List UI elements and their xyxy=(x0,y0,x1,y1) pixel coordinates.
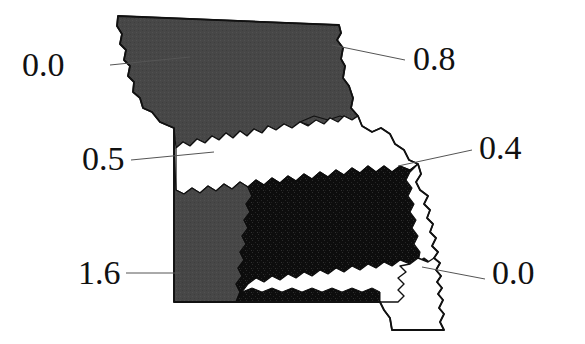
leader-east-central xyxy=(398,150,472,166)
region-south-black-base xyxy=(236,288,380,302)
label-southwest: 1.6 xyxy=(78,256,121,290)
label-west-central: 0.5 xyxy=(82,142,125,176)
label-southeast: 0.0 xyxy=(492,256,535,290)
label-northeast: 0.8 xyxy=(413,42,456,76)
missouri-value-map-figure: 0.0 0.8 0.5 0.4 1.6 0.0 xyxy=(0,0,585,344)
label-east-central: 0.4 xyxy=(479,131,522,165)
label-northwest: 0.0 xyxy=(22,48,65,82)
